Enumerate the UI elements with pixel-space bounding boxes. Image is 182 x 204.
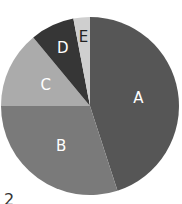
slice-label-a: A — [133, 89, 144, 107]
figure-number: 2 — [4, 192, 14, 204]
slice-label-c: C — [40, 76, 50, 94]
slice-label-d: D — [57, 39, 69, 57]
slice-label-b: B — [56, 137, 66, 155]
slice-label-e: E — [79, 28, 88, 46]
pie-chart: ABCDE — [0, 0, 182, 204]
